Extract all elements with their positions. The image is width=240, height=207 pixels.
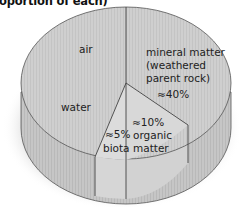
label-water: water xyxy=(61,101,91,114)
label-mineral-2: (weathered xyxy=(146,59,206,72)
biota-side xyxy=(95,157,126,199)
label-organic-1: organic xyxy=(133,129,172,142)
pie-chart xyxy=(0,0,240,207)
label-biota: biota xyxy=(103,142,130,155)
label-biota-pct: ≈5% xyxy=(105,128,130,141)
label-organic-pct: ≈10% xyxy=(132,116,164,129)
label-organic-2: matter xyxy=(133,142,169,155)
label-mineral-pct: ≈40% xyxy=(157,88,189,101)
label-mineral-1: mineral matter xyxy=(146,46,225,59)
label-air: air xyxy=(79,43,93,56)
label-mineral-3: parent rock) xyxy=(146,72,210,85)
